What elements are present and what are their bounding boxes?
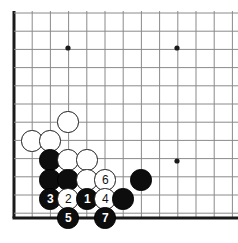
move-number-label: 7 (102, 212, 108, 224)
black-stone-h (57, 169, 78, 190)
move-7-black: 7 (94, 207, 115, 228)
star-point-bottom-right (174, 158, 179, 163)
star-point-top-right (174, 45, 179, 50)
move-6-white: 6 (94, 169, 115, 190)
black-stone-k (112, 188, 133, 209)
star-point-top-left (65, 45, 70, 50)
white-stone-a (57, 111, 78, 132)
move-2-white: 2 (57, 188, 78, 209)
move-number-label: 6 (102, 174, 108, 186)
move-number-label: 2 (65, 193, 71, 205)
move-number-label: 1 (84, 193, 90, 205)
move-number-label: 5 (65, 212, 71, 224)
white-stone-f (76, 149, 97, 170)
white-stone-c (39, 130, 60, 151)
move-number-label: 3 (47, 193, 53, 205)
move-number-label: 4 (102, 193, 108, 205)
move-5-black: 5 (57, 207, 78, 228)
black-stone-j (130, 169, 151, 190)
go-diagram: 6321457 (0, 0, 238, 243)
white-stone-e (57, 149, 78, 170)
